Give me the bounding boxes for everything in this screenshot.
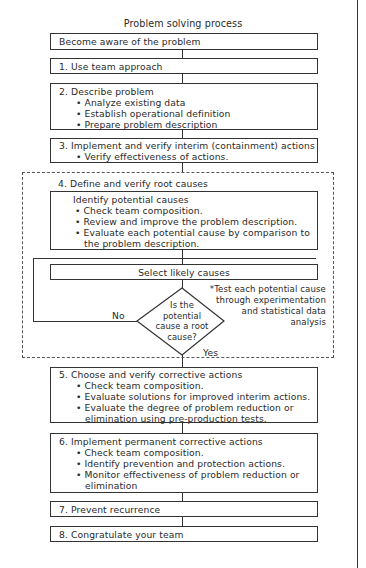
step-5-box: 5. Choose and verify corrective actions … xyxy=(50,367,318,423)
test-note-line: *Test each potential cause xyxy=(200,284,326,295)
step-5-bullet: • Evaluate solutions for improved interi… xyxy=(59,391,317,402)
step-8-label: 8. Congratulate your team xyxy=(51,527,317,540)
step-6-box: 6. Implement permanent corrective action… xyxy=(50,433,318,493)
decision-line: cause? xyxy=(142,332,222,343)
step-6-continuation: elimination xyxy=(59,480,317,491)
step-6-label: 6. Implement permanent corrective action… xyxy=(59,436,317,447)
step-5-continuation: elimination using pre-production tests. xyxy=(59,413,317,424)
step-7-label: 7. Prevent recurrence xyxy=(51,502,317,515)
step-5-bullet: • Check team composition. xyxy=(59,380,317,391)
test-note: *Test each potential cause through exper… xyxy=(200,284,326,328)
yes-label: Yes xyxy=(203,347,218,358)
step-5-label: 5. Choose and verify corrective actions xyxy=(59,369,317,380)
no-label: No xyxy=(112,310,125,321)
test-note-line: analysis xyxy=(200,317,326,328)
step-6-bullet: • Check team composition. xyxy=(59,447,317,458)
step-7-box: 7. Prevent recurrence xyxy=(50,501,318,517)
step-6-bullet: • Monitor effectiveness of problem reduc… xyxy=(59,469,317,480)
step-5-bullet: • Evaluate the degree of problem reducti… xyxy=(59,402,317,413)
step-6-bullet: • Identify prevention and protection act… xyxy=(59,458,317,469)
test-note-line: and statistical data xyxy=(200,306,326,317)
test-note-line: through experimentation xyxy=(200,295,326,306)
step-8-box: 8. Congratulate your team xyxy=(50,526,318,542)
